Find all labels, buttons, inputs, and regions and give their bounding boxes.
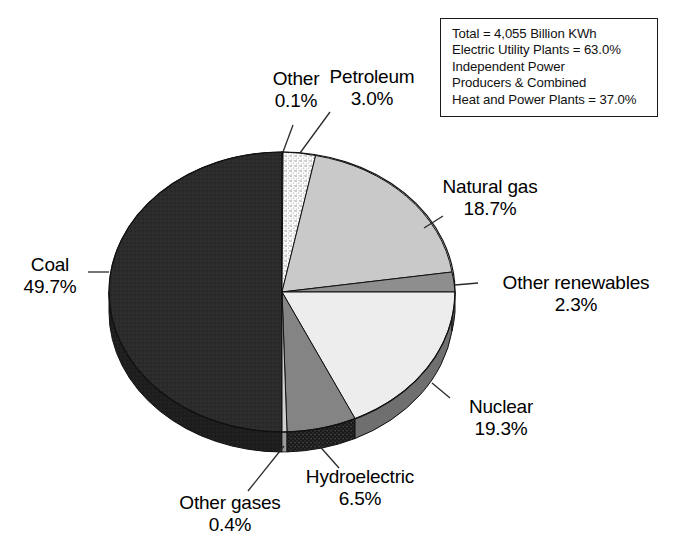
leader-line-other [283,125,293,152]
pie-label-nuclear: Nuclear 19.3% [446,396,556,440]
summary-note-box: Total = 4,055 Billion KWh Electric Utili… [440,18,658,117]
leader-line-petroleum [300,112,330,153]
pie-slice-coal[interactable] [109,152,282,432]
pie-label-other-name: Other [273,68,320,89]
pie-label-petroleum-value: 3.0% [316,88,428,110]
pie-label-natural-gas-value: 18.7% [420,198,560,220]
pie-label-petroleum: Petroleum 3.0% [316,66,428,110]
pie-label-hydroelectric-value: 6.5% [284,488,436,510]
chart-canvas: Other 0.1% Petroleum 3.0% Natural gas 18… [0,0,674,553]
pie-label-other-renewables: Other renewables 2.3% [486,272,666,316]
pie-label-other-gases: Other gases 0.4% [160,492,300,536]
pie-label-other-gases-name: Other gases [179,492,280,513]
pie-label-coal-value: 49.7% [8,276,92,298]
pie-label-other-gases-value: 0.4% [160,514,300,536]
pie-label-other-renewables-name: Other renewables [503,272,650,293]
leader-line-other-gases [248,446,284,491]
pie-slices [109,152,455,432]
leader-line-other-renewables [455,283,478,285]
pie-label-nuclear-name: Nuclear [469,396,533,417]
pie-label-hydroelectric-name: Hydroelectric [306,466,414,487]
pie-label-other-renewables-value: 2.3% [486,294,666,316]
pie-label-nuclear-value: 19.3% [446,418,556,440]
pie-label-hydroelectric: Hydroelectric 6.5% [284,466,436,510]
note-line-ipp-2: Producers & Combined [452,75,648,91]
pie-label-coal-name: Coal [31,254,69,275]
note-line-chp: Heat and Power Plants = 37.0% [452,92,648,108]
pie-label-coal: Coal 49.7% [8,254,92,298]
note-line-ipp-1: Independent Power [452,59,648,75]
pie-label-natural-gas-name: Natural gas [443,176,538,197]
pie-label-petroleum-name: Petroleum [330,66,415,87]
pie-label-natural-gas: Natural gas 18.7% [420,176,560,220]
note-line-utility: Electric Utility Plants = 63.0% [452,42,648,58]
note-line-total: Total = 4,055 Billion KWh [452,26,648,42]
